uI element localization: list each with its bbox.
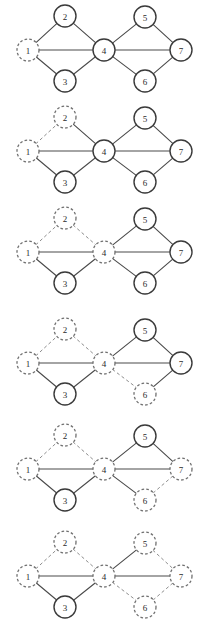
- edge-3-4-solid: [73, 476, 96, 494]
- node-4-dashed[interactable]: 4: [93, 565, 115, 587]
- edge-4-6-solid: [112, 258, 136, 276]
- edge-1-3-solid: [36, 583, 57, 601]
- node-6-solid[interactable]: 6: [134, 171, 156, 193]
- node-6-solid[interactable]: 6: [134, 272, 156, 294]
- node-1-dashed[interactable]: 1: [17, 241, 39, 263]
- node-1-dashed[interactable]: 1: [17, 39, 39, 61]
- node-3-solid[interactable]: 3: [54, 596, 76, 618]
- edge-2-4-dashed: [73, 225, 96, 245]
- node-label-1: 1: [26, 572, 31, 582]
- edge-2-4-solid: [73, 124, 96, 144]
- node-3-solid[interactable]: 3: [54, 489, 76, 511]
- edge-2-4-dashed: [73, 442, 96, 462]
- node-2-dashed[interactable]: 2: [54, 106, 76, 128]
- node-label-2: 2: [63, 113, 68, 123]
- edge-4-5-solid: [112, 550, 137, 570]
- node-label-3: 3: [63, 77, 68, 87]
- edge-1-3-solid: [36, 476, 57, 494]
- edge-4-6-solid: [112, 157, 136, 175]
- node-5-solid[interactable]: 5: [134, 425, 156, 447]
- node-2-dashed[interactable]: 2: [54, 531, 76, 553]
- node-3-solid[interactable]: 3: [54, 383, 76, 405]
- edge-5-7-solid: [153, 443, 174, 462]
- edge-6-7-dashed: [153, 583, 173, 600]
- node-6-solid[interactable]: 6: [134, 70, 156, 92]
- node-1-dashed[interactable]: 1: [17, 565, 39, 587]
- edge-5-7-solid: [153, 337, 174, 356]
- node-label-5: 5: [143, 539, 148, 549]
- node-label-6: 6: [143, 279, 148, 289]
- node-label-2: 2: [63, 214, 68, 224]
- node-label-4: 4: [102, 359, 107, 369]
- edge-2-4-dashed: [73, 336, 96, 356]
- edge-6-7-solid: [153, 259, 173, 276]
- edge-4-6-dashed: [112, 369, 136, 387]
- edge-6-7-solid: [153, 370, 173, 387]
- node-4-dashed[interactable]: 4: [93, 352, 115, 374]
- node-label-3: 3: [63, 390, 68, 400]
- node-label-7: 7: [179, 46, 184, 56]
- node-label-2: 2: [63, 538, 68, 548]
- edge-2-4-solid: [73, 23, 96, 43]
- node-1-dashed[interactable]: 1: [17, 352, 39, 374]
- node-label-6: 6: [143, 178, 148, 188]
- node-4-dashed[interactable]: 4: [93, 458, 115, 480]
- node-7-dashed[interactable]: 7: [170, 565, 192, 587]
- node-4-dashed[interactable]: 4: [93, 241, 115, 263]
- node-7-solid[interactable]: 7: [170, 140, 192, 162]
- node-2-dashed[interactable]: 2: [54, 207, 76, 229]
- node-label-5: 5: [143, 326, 148, 336]
- panel-5: 1234567: [0, 419, 204, 519]
- edge-5-7-dashed: [153, 550, 174, 569]
- node-4-solid[interactable]: 4: [93, 39, 115, 61]
- node-2-solid[interactable]: 2: [54, 5, 76, 27]
- node-7-solid[interactable]: 7: [170, 241, 192, 263]
- node-label-6: 6: [143, 77, 148, 87]
- node-4-solid[interactable]: 4: [93, 140, 115, 162]
- node-label-6: 6: [143, 603, 148, 613]
- node-label-7: 7: [179, 465, 184, 475]
- edge-4-5-solid: [112, 24, 137, 44]
- node-label-3: 3: [63, 496, 68, 506]
- node-7-dashed[interactable]: 7: [170, 458, 192, 480]
- edge-1-2-dashed: [36, 549, 58, 569]
- edge-4-5-solid: [112, 125, 137, 145]
- node-2-dashed[interactable]: 2: [54, 318, 76, 340]
- node-3-solid[interactable]: 3: [54, 70, 76, 92]
- node-7-solid[interactable]: 7: [170, 352, 192, 374]
- edge-4-6-solid: [112, 56, 136, 74]
- node-1-dashed[interactable]: 1: [17, 140, 39, 162]
- node-label-7: 7: [179, 147, 184, 157]
- node-5-dashed[interactable]: 5: [134, 532, 156, 554]
- node-6-dashed[interactable]: 6: [134, 383, 156, 405]
- edge-4-5-solid: [112, 226, 137, 246]
- node-label-5: 5: [143, 13, 148, 23]
- node-6-dashed[interactable]: 6: [134, 489, 156, 511]
- node-2-dashed[interactable]: 2: [54, 424, 76, 446]
- node-5-solid[interactable]: 5: [134, 208, 156, 230]
- node-label-2: 2: [63, 12, 68, 22]
- node-3-solid[interactable]: 3: [54, 171, 76, 193]
- graph-sequence-figure: 1234567123456712345671234567123456712345…: [0, 0, 204, 626]
- node-label-4: 4: [102, 147, 107, 157]
- node-1-dashed[interactable]: 1: [17, 458, 39, 480]
- node-6-dashed[interactable]: 6: [134, 596, 156, 618]
- panel-4: 1234567: [0, 313, 204, 413]
- edge-6-7-dashed: [153, 476, 173, 493]
- edge-2-4-dashed: [73, 549, 96, 569]
- edge-5-7-solid: [153, 125, 174, 144]
- node-label-4: 4: [102, 248, 107, 258]
- panel-2: 1234567: [0, 101, 204, 201]
- node-5-solid[interactable]: 5: [134, 6, 156, 28]
- edge-3-4-solid: [73, 259, 96, 277]
- node-5-solid[interactable]: 5: [134, 319, 156, 341]
- node-3-solid[interactable]: 3: [54, 272, 76, 294]
- node-5-solid[interactable]: 5: [134, 107, 156, 129]
- node-7-solid[interactable]: 7: [170, 39, 192, 61]
- panel-3: 1234567: [0, 202, 204, 302]
- node-label-6: 6: [143, 496, 148, 506]
- node-label-4: 4: [102, 46, 107, 56]
- edge-1-2-dashed: [36, 225, 58, 245]
- panel-1-graph: 1234567: [0, 0, 204, 100]
- panel-5-graph: 1234567: [0, 419, 204, 519]
